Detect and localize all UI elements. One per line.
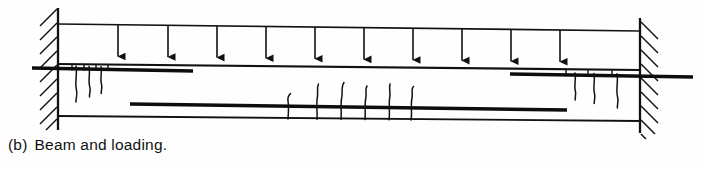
beam-outline xyxy=(58,64,640,121)
crack xyxy=(341,83,344,120)
beam-bottom-edge xyxy=(58,116,640,121)
bottom-midspan-rebar xyxy=(130,104,567,110)
crack xyxy=(101,67,102,94)
right-support-hatching xyxy=(641,22,658,139)
beam-diagram-svg xyxy=(0,0,705,140)
caption-label: (b) xyxy=(8,136,28,153)
crack xyxy=(575,73,576,100)
right-fixed-support xyxy=(640,18,658,139)
caption-text: Beam and loading. xyxy=(35,136,168,153)
crack xyxy=(365,86,367,120)
crack xyxy=(89,67,90,98)
crack xyxy=(317,84,319,119)
crack xyxy=(411,87,414,121)
top-right-rebar xyxy=(510,74,693,77)
crack xyxy=(617,74,618,108)
crack xyxy=(76,66,77,102)
crack xyxy=(389,84,390,120)
beam-and-loading-figure: (b)Beam and loading. xyxy=(0,0,705,170)
right-support-cracks xyxy=(575,73,618,108)
load-top-line xyxy=(58,24,640,31)
left-support-cracks xyxy=(76,66,102,102)
load-arrows xyxy=(118,25,560,62)
figure-caption: (b)Beam and loading. xyxy=(8,136,167,154)
crack xyxy=(594,73,595,103)
top-left-rebar xyxy=(32,68,193,71)
uniform-distributed-load xyxy=(58,24,640,62)
midspan-cracks xyxy=(288,83,414,121)
